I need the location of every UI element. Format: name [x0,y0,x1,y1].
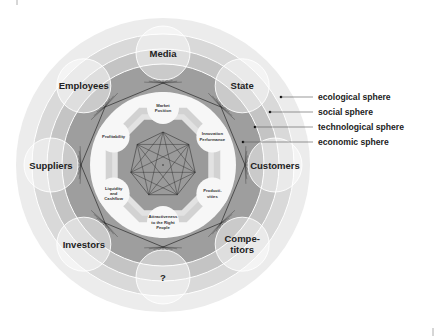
success-factor-label: Performance [200,137,226,142]
stakeholder-label: Customers [250,160,300,171]
stakeholder-sphere-diagram: MarketPositionInnovationPerformanceProdu… [0,0,448,336]
center-dot [162,164,164,166]
success-factor-label: vities [207,194,218,199]
stakeholder-label: State [231,80,254,91]
stakeholder-label: Compe- [225,233,260,244]
legend-label: technological sphere [318,122,404,132]
stakeholder-label: ? [160,272,166,283]
legend-label: social sphere [318,107,373,117]
legend-label: economic sphere [318,137,389,147]
success-factor-label: Cashflow [104,196,123,201]
success-factor-label: People [156,225,170,230]
stakeholder-label: Suppliers [29,160,72,171]
stakeholder-label: Media [150,48,178,59]
legend-label: ecological sphere [318,92,391,102]
stakeholder-label: titors [230,244,254,255]
stakeholder-label: Employees [59,80,109,91]
stakeholder-label: Investors [63,239,105,250]
success-factor-label: Position [155,108,172,113]
success-factor-label: Profitability [102,134,126,139]
success-factor-core: MarketPositionInnovationPerformanceProdu… [90,92,236,238]
